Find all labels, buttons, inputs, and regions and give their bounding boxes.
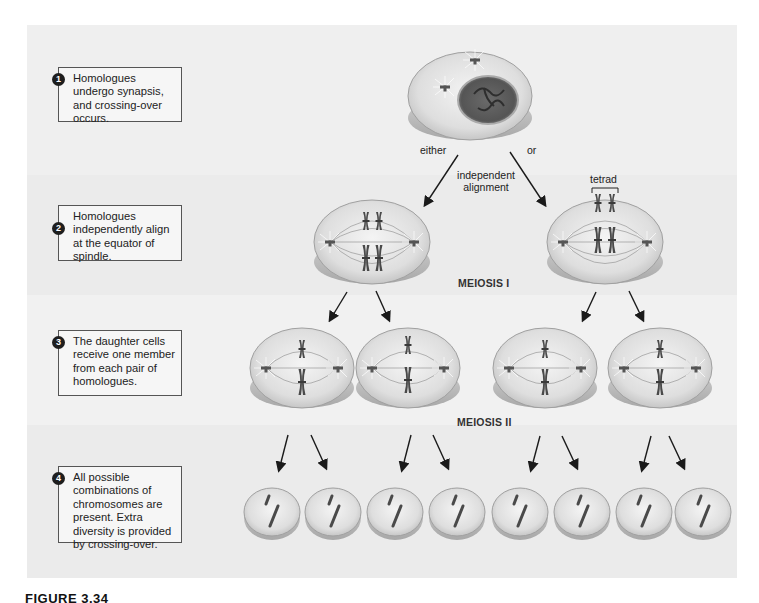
label-meiosis-1: MEIOSIS I <box>458 277 509 289</box>
daughter-cell <box>675 488 731 540</box>
label-meiosis-2: MEIOSIS II <box>457 416 512 428</box>
daughter-cell <box>492 488 548 540</box>
daughter-cell <box>616 488 672 540</box>
arrow-either <box>425 155 458 205</box>
metaphase-1-cell-left <box>314 200 430 284</box>
daughter-cell <box>367 488 423 540</box>
metaphase-2-cell <box>493 328 597 408</box>
metaphase-2-cell <box>356 328 460 408</box>
daughter-cell <box>244 488 300 540</box>
label-independent-alignment: independent alignment <box>457 169 515 193</box>
arrow-or <box>510 152 545 205</box>
meiosis-1-arrows <box>330 291 643 320</box>
label-tetrad: tetrad <box>590 173 617 185</box>
label-either: either <box>420 144 446 156</box>
step-number-badge: 3 <box>52 336 65 349</box>
prophase-cell <box>408 49 532 140</box>
daughter-cells <box>244 488 731 540</box>
daughter-cell <box>429 488 485 540</box>
figure-caption: FIGURE 3.34 <box>25 591 109 603</box>
step-text: All possible combinations of chromosomes… <box>73 471 171 550</box>
daughter-cell <box>305 488 361 540</box>
tetrad-bracket <box>592 188 618 193</box>
step-box-4: 4 All possible combinations of chromosom… <box>58 466 182 543</box>
daughter-cell <box>554 488 610 540</box>
step-number-badge: 2 <box>52 222 65 235</box>
step-number-badge: 1 <box>52 73 65 86</box>
step-box-3: 3 The daughter cells receive one member … <box>58 330 182 396</box>
step-number-badge: 4 <box>52 472 65 485</box>
label-or: or <box>527 144 536 156</box>
metaphase-2-cell <box>250 328 354 408</box>
meiosis-2-arrows <box>279 435 684 470</box>
step-text: The daughter cells receive one member fr… <box>73 335 175 387</box>
step-text: Homologues independently align at the eq… <box>73 210 169 262</box>
step-box-2: 2 Homologues independently align at the … <box>58 205 182 261</box>
step-text: Homologues undergo synapsis, and crossin… <box>73 72 164 124</box>
step-box-1: 1 Homologues undergo synapsis, and cross… <box>58 67 182 122</box>
metaphase-1-cell-right <box>547 188 663 284</box>
metaphase-2-cell <box>608 328 712 408</box>
